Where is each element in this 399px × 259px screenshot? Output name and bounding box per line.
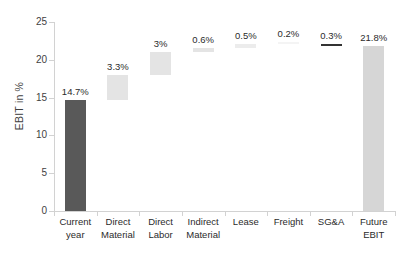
- bar-total: [363, 46, 384, 211]
- x-label-line: EBIT: [352, 229, 395, 242]
- data-label: 0.2%: [267, 28, 310, 39]
- x-label-line: Indirect: [182, 216, 225, 229]
- x-axis-category-label: DirectLabor: [139, 216, 182, 241]
- y-tick-mark: [49, 135, 54, 136]
- y-tick-label: 0: [7, 205, 47, 216]
- x-axis-category-label: SG&A: [310, 216, 353, 229]
- x-axis-category-label: DirectMaterial: [97, 216, 140, 241]
- y-tick-mark: [49, 60, 54, 61]
- bar-increase: [278, 42, 299, 44]
- data-label: 0.5%: [225, 30, 268, 41]
- data-label: 3%: [139, 38, 182, 49]
- y-tick-mark: [49, 98, 54, 99]
- bar-increase: [235, 44, 256, 48]
- x-axis-category-label: Freight: [267, 216, 310, 229]
- x-label-line: Direct: [97, 216, 140, 229]
- bar-decrease: [321, 44, 342, 46]
- y-tick-mark: [49, 173, 54, 174]
- data-label: 0.6%: [182, 34, 225, 45]
- x-label-line: Labor: [139, 229, 182, 242]
- x-axis-category-label: FutureEBIT: [352, 216, 395, 241]
- data-label: 14.7%: [54, 86, 97, 97]
- x-tick-mark: [395, 211, 396, 216]
- x-label-line: Future: [352, 216, 395, 229]
- x-label-line: Current: [54, 216, 97, 229]
- y-axis-line: [54, 22, 55, 212]
- y-tick-label: 5: [7, 167, 47, 178]
- waterfall-chart: EBIT in % 0510152025 14.7%3.3%3%0.6%0.5%…: [0, 0, 399, 259]
- x-axis-category-label: Lease: [225, 216, 268, 229]
- y-tick-mark: [49, 22, 54, 23]
- y-tick-label: 15: [7, 92, 47, 103]
- bar-increase: [107, 75, 128, 100]
- y-axis-title: EBIT in %: [13, 51, 25, 161]
- data-label: 0.3%: [310, 30, 353, 41]
- y-tick-label: 10: [7, 129, 47, 140]
- x-label-line: year: [54, 229, 97, 242]
- x-axis-category-label: Currentyear: [54, 216, 97, 241]
- x-label-line: Freight: [267, 216, 310, 229]
- y-tick-label: 25: [7, 16, 47, 27]
- data-label: 3.3%: [97, 61, 140, 72]
- data-label: 21.8%: [352, 32, 395, 43]
- bar-total: [65, 100, 86, 211]
- y-tick-label: 20: [7, 54, 47, 65]
- x-label-line: Lease: [225, 216, 268, 229]
- bar-increase: [193, 48, 214, 53]
- x-label-line: Material: [97, 229, 140, 242]
- x-label-line: Material: [182, 229, 225, 242]
- bar-increase: [150, 52, 171, 75]
- x-label-line: SG&A: [310, 216, 353, 229]
- x-label-line: Direct: [139, 216, 182, 229]
- x-axis-category-label: IndirectMaterial: [182, 216, 225, 241]
